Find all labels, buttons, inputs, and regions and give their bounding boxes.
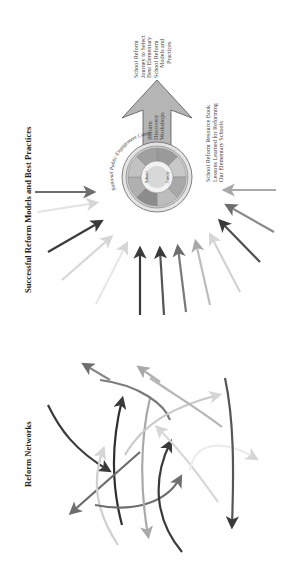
incoming-arrow xyxy=(96,245,126,304)
incoming-arrow xyxy=(228,206,274,232)
network-arrow xyxy=(190,446,255,470)
svg-text:Successful Reform Models and B: Successful Reform Models and Best Practi… xyxy=(23,126,33,293)
incoming-arrow xyxy=(62,238,110,280)
network-arrow xyxy=(72,452,140,512)
network-arrow xyxy=(85,365,110,380)
network-arrows xyxy=(48,365,255,552)
incoming-arrow xyxy=(178,248,186,312)
network-arrow xyxy=(225,378,233,525)
svg-text:Workshops: Workshops xyxy=(158,112,165,140)
svg-text:Practices: Practices xyxy=(165,41,172,64)
resource-book-note: School Reform Resource Book Lessons Lear… xyxy=(204,103,224,182)
top-section-title: Successful Reform Models and Best Practi… xyxy=(23,126,33,293)
incoming-arrow xyxy=(211,236,240,292)
incoming-arrow xyxy=(196,243,210,305)
network-arrow xyxy=(150,378,222,427)
incoming-arrow xyxy=(221,222,260,262)
svg-text:Reform Networks: Reform Networks xyxy=(23,421,33,487)
network-arrow xyxy=(125,395,218,455)
bottom-section-title: Reform Networks xyxy=(23,421,33,487)
network-arrow xyxy=(114,400,122,525)
network-arrow xyxy=(140,368,160,382)
journey-note: School Reform Journey to Select Best Ele… xyxy=(132,35,172,78)
diagram-canvas: Successful Reform Models and Best Practi… xyxy=(0,0,294,561)
svg-text:Our Elementary Schools: Our Elementary Schools xyxy=(217,121,224,182)
network-arrow xyxy=(142,398,150,535)
hub-circle: School Family xyxy=(122,142,192,212)
hub-label-school: School xyxy=(144,171,149,183)
network-arrow xyxy=(158,428,218,502)
incoming-arrow xyxy=(48,222,100,252)
incoming-arrow xyxy=(38,203,95,212)
network-arrow xyxy=(95,478,180,508)
incoming-arrow xyxy=(160,250,164,315)
network-arrow xyxy=(100,380,170,420)
hub-label-family: Family xyxy=(165,170,170,183)
